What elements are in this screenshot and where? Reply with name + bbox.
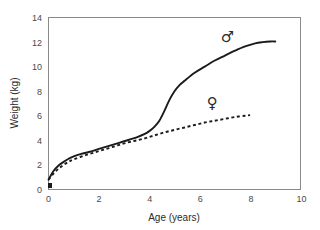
origin-marker [48,183,52,188]
x-tick-label: 4 [147,194,152,204]
male-symbol-annotation: ♂ [221,28,234,46]
y-tick-label: 0 [37,185,42,195]
x-tick-label: 6 [198,194,203,204]
y-axis-title: Weight (kg) [9,78,20,129]
x-axis-tick-labels: 0 2 4 6 8 10 [46,194,307,204]
plot-frame [49,18,301,190]
series-line-male [49,41,276,179]
y-axis-tick-labels: 14 12 10 8 6 4 2 0 [32,13,42,195]
series-line-female [49,115,251,180]
y-tick-label: 2 [37,160,42,170]
x-tick-label: 2 [97,194,102,204]
x-axis-title: Age (years) [148,212,200,223]
chart-canvas: 14 12 10 8 6 4 2 0 0 2 4 6 8 10 Age (yea… [0,0,320,230]
x-tick-label: 8 [248,194,253,204]
y-tick-label: 4 [37,136,42,146]
x-tick-label: 10 [296,194,306,204]
y-tick-label: 10 [32,62,42,72]
growth-curve-figure: 14 12 10 8 6 4 2 0 0 2 4 6 8 10 Age (yea… [0,0,320,230]
y-tick-label: 14 [32,13,42,23]
y-tick-label: 12 [32,38,42,48]
y-tick-label: 8 [37,87,42,97]
female-symbol-annotation: ♀ [207,94,218,112]
x-tick-label: 0 [46,194,51,204]
y-tick-label: 6 [37,111,42,121]
